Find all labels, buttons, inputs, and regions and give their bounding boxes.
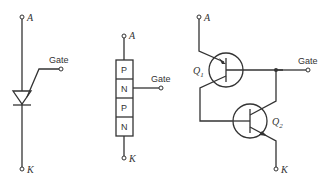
q2-collector-wire [250,70,276,115]
anode-label: A [26,12,34,23]
cathode-label: K [128,153,137,164]
gate-wire [27,69,59,97]
scr-symbol-panel: A K Gate [13,12,69,175]
gate-label: Gate [151,74,171,84]
gate-terminal [306,68,310,72]
cathode-terminal [122,156,126,160]
q1-label: Q1 [193,65,204,79]
gate-label: Gate [298,56,318,66]
cathode-terminal [274,167,278,171]
q1-emitter-arrow-icon [219,58,226,64]
two-transistor-panel: A Q1 Gate Q2 K [193,12,318,175]
scr-diagram: A K Gate A P N P N Gate K A [0,0,328,185]
q1-collector-wire [200,76,232,121]
gate-terminal [159,86,163,90]
q2-label: Q2 [272,116,283,130]
anode-terminal [122,34,126,38]
cathode-label: K [26,164,35,175]
anode-terminal [197,15,201,19]
anode-label: A [203,12,211,23]
layer-p1: P [121,65,127,75]
anode-label: A [128,30,136,41]
anode-wire [199,19,224,62]
cathode-terminal [20,167,24,171]
layer-n1: N [121,84,128,94]
cathode-label: K [280,164,289,175]
layer-n2: N [121,122,128,132]
anode-terminal [20,15,24,19]
gate-label: Gate [49,55,69,65]
layer-p2: P [121,103,127,113]
gate-terminal [59,67,63,71]
pnpn-panel: A P N P N Gate K [116,30,171,164]
